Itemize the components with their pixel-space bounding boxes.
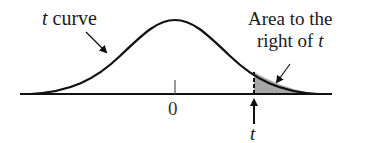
curve-label: t curve bbox=[42, 8, 97, 28]
curve-label-text: curve bbox=[48, 7, 97, 29]
area-pointer-arrow bbox=[277, 64, 290, 82]
zero-label: 0 bbox=[168, 99, 178, 118]
shaded-tail-area bbox=[254, 72, 318, 94]
t-curve-diagram: t curve Area to the right of t 0 t bbox=[0, 0, 366, 143]
curve-pointer-arrow bbox=[86, 32, 106, 52]
area-label-line2-text: right of bbox=[257, 30, 318, 51]
area-label: Area to the right of t bbox=[248, 8, 332, 52]
area-label-line2-var: t bbox=[318, 30, 323, 51]
area-label-line1: Area to the bbox=[248, 8, 332, 30]
area-label-line2: right of t bbox=[248, 30, 332, 52]
t-label: t bbox=[250, 124, 255, 143]
